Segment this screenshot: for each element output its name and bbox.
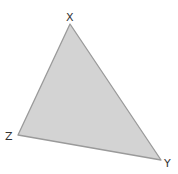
triangle-diagram: X Y Z (0, 0, 178, 174)
vertex-label-y: Y (163, 157, 171, 170)
triangle-xyz (18, 24, 161, 160)
vertex-label-x: X (66, 11, 74, 24)
vertex-label-z: Z (5, 130, 13, 143)
